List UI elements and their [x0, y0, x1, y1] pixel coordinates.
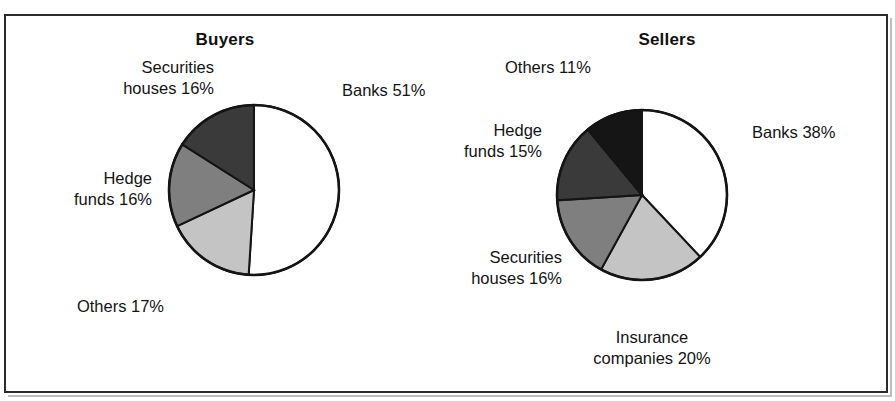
label-sellers-hedge-funds: Hedge funds 15% — [420, 120, 542, 162]
panel-title-sellers: Sellers — [446, 30, 888, 50]
pie-sellers-svg: Banks 38%Insurance companies 20%Securiti… — [553, 106, 731, 284]
label-sellers-others: Others 11% — [505, 57, 645, 78]
label-buyers-others: Others 17% — [24, 296, 164, 317]
panel-title-buyers: Buyers — [4, 30, 446, 50]
pie-chart-buyers: Banks 51%Others 17%Hedge funds 16%Securi… — [165, 101, 343, 279]
pie-chart-sellers: Banks 38%Insurance companies 20%Securiti… — [553, 106, 731, 284]
label-sellers-insurance-companies: Insurance companies 20% — [548, 327, 756, 369]
label-sellers-securities-houses: Securities houses 16% — [412, 247, 562, 289]
label-buyers-hedge-funds: Hedge funds 16% — [24, 168, 152, 210]
figure-canvas: Buyers Banks 51%Others 17%Hedge funds 16… — [0, 0, 895, 401]
pie-slice: Banks 51% — [249, 105, 339, 275]
label-buyers-securities-houses: Securities houses 16% — [62, 57, 214, 99]
label-sellers-banks: Banks 38% — [752, 122, 882, 143]
pie-buyers-svg: Banks 51%Others 17%Hedge funds 16%Securi… — [165, 101, 343, 279]
